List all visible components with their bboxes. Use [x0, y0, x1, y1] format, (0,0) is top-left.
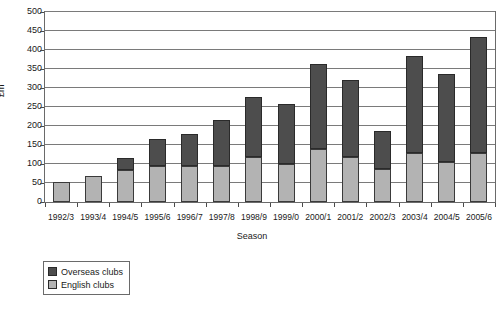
x-tick-mark	[334, 203, 335, 207]
y-tick-label: 100	[12, 159, 42, 168]
y-tick-mark	[40, 69, 44, 70]
y-tick-label: 200	[12, 121, 42, 130]
y-tick-mark	[40, 164, 44, 165]
bar-segment-english[interactable]	[278, 164, 295, 202]
bar-segment-overseas[interactable]	[181, 134, 198, 166]
y-tick-label: 400	[12, 45, 42, 54]
bar-segment-english[interactable]	[117, 170, 134, 202]
y-tick-label: 350	[12, 64, 42, 73]
y-tick-mark	[40, 50, 44, 51]
y-tick-label: 450	[12, 26, 42, 35]
bar-segment-overseas[interactable]	[406, 56, 423, 153]
bar-segment-english[interactable]	[342, 157, 359, 202]
bar-segment-english[interactable]	[438, 162, 455, 202]
y-tick-label: 0	[12, 197, 42, 206]
bar-segment-overseas[interactable]	[342, 80, 359, 157]
x-tick-mark	[206, 203, 207, 207]
x-axis-title: Season	[0, 231, 504, 241]
y-tick-mark	[40, 183, 44, 184]
y-tick-mark	[40, 31, 44, 32]
bars-layer	[45, 12, 495, 202]
legend-item-english: English clubs	[48, 278, 123, 291]
bar-segment-english[interactable]	[470, 153, 487, 202]
y-tick-label: 500	[12, 7, 42, 16]
x-tick-mark	[399, 203, 400, 207]
y-tick-mark	[40, 145, 44, 146]
x-tick-mark	[495, 203, 496, 207]
x-tick-mark	[366, 203, 367, 207]
y-tick-label: 300	[12, 83, 42, 92]
bar-segment-overseas[interactable]	[213, 120, 230, 166]
y-tick-label: 50	[12, 178, 42, 187]
bar-segment-english[interactable]	[213, 166, 230, 202]
bar-segment-overseas[interactable]	[470, 37, 487, 153]
chart-legend: Overseas clubs English clubs	[43, 261, 130, 295]
bar-segment-english[interactable]	[53, 182, 70, 202]
bar-segment-english[interactable]	[85, 176, 102, 202]
legend-swatch-english-icon	[48, 280, 57, 289]
y-tick-mark	[40, 88, 44, 89]
x-tick-mark	[174, 203, 175, 207]
y-tick-label: 250	[12, 102, 42, 111]
y-tick-mark	[40, 12, 44, 13]
x-tick-mark	[141, 203, 142, 207]
y-tick-mark	[40, 202, 44, 203]
stacked-bar-chart: £m 050100150200250300350400450500 1992/3…	[0, 0, 504, 310]
bar-segment-overseas[interactable]	[149, 139, 166, 166]
x-tick-mark	[463, 203, 464, 207]
x-tick-mark	[431, 203, 432, 207]
y-axis-title: £m	[0, 84, 6, 97]
bar-segment-english[interactable]	[149, 166, 166, 202]
x-tick-mark	[302, 203, 303, 207]
x-tick-mark	[109, 203, 110, 207]
bar-segment-overseas[interactable]	[117, 158, 134, 169]
x-tick-mark	[238, 203, 239, 207]
x-tick-label: 2005/6	[457, 212, 501, 222]
bar-segment-overseas[interactable]	[245, 97, 262, 157]
legend-label-english: English clubs	[61, 280, 114, 290]
bar-segment-english[interactable]	[245, 157, 262, 202]
bar-segment-english[interactable]	[181, 166, 198, 202]
x-tick-mark	[45, 203, 46, 207]
bar-segment-english[interactable]	[374, 169, 391, 202]
y-tick-mark	[40, 107, 44, 108]
legend-label-overseas: Overseas clubs	[61, 267, 123, 277]
x-tick-mark	[270, 203, 271, 207]
bar-segment-english[interactable]	[310, 149, 327, 202]
bar-segment-overseas[interactable]	[374, 131, 391, 169]
x-tick-mark	[77, 203, 78, 207]
bar-segment-overseas[interactable]	[278, 104, 295, 164]
bar-segment-overseas[interactable]	[310, 64, 327, 148]
y-tick-mark	[40, 126, 44, 127]
bar-segment-overseas[interactable]	[438, 74, 455, 162]
bar-segment-english[interactable]	[406, 153, 423, 202]
y-tick-label: 150	[12, 140, 42, 149]
legend-swatch-overseas-icon	[48, 267, 57, 276]
legend-item-overseas: Overseas clubs	[48, 265, 123, 278]
